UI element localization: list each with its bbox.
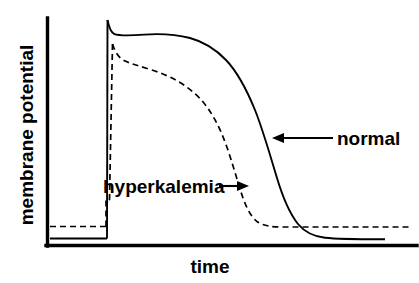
normal-curve-upstroke — [107, 20, 108, 239]
normal-arrow-head-icon — [272, 133, 284, 143]
normal-arrow — [272, 133, 333, 143]
y-axis-title: membrane potential — [16, 22, 38, 248]
normal-curve-group — [50, 20, 385, 239]
hyperkalemia-arrow-head-icon — [237, 181, 249, 191]
x-axis-title: time — [160, 256, 260, 278]
hyperkalemia-curve-label: hyperkalemia — [103, 176, 224, 198]
annotation-arrows-group — [219, 133, 333, 191]
action-potential-figure: membrane potential time hyperkalemia nor… — [0, 0, 419, 283]
normal-curve-label: normal — [337, 128, 400, 150]
